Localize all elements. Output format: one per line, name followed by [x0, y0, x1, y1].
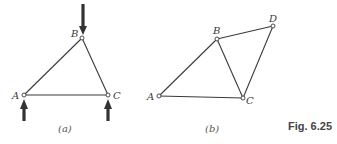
joint-label-b: B: [70, 28, 78, 39]
joint-b: [80, 36, 84, 40]
truss-figure: A B C (a) A B C D (b) Fig. 6.25: [0, 0, 337, 144]
panel-label-a: (a): [58, 123, 72, 134]
member-ab: [159, 39, 217, 96]
joint-b: [215, 37, 219, 41]
joint-c: [106, 93, 110, 97]
member-dc: [243, 26, 273, 98]
member-ab: [24, 38, 82, 95]
member-bc: [217, 39, 243, 98]
panel-b: A B C D (b): [146, 13, 277, 134]
arrow-up-icon: [104, 99, 112, 121]
member-ac: [159, 96, 243, 98]
member-bd: [217, 26, 273, 39]
joint-label-c: C: [246, 95, 254, 106]
joint-label-a: A: [11, 90, 19, 101]
panel-a: A B C (a): [11, 4, 121, 134]
figure-caption: Fig. 6.25: [288, 120, 332, 132]
joint-label-a: A: [146, 91, 154, 102]
member-bc: [82, 38, 108, 95]
joint-label-b: B: [212, 25, 220, 36]
joint-label-c: C: [113, 90, 121, 101]
arrow-down-icon: [79, 4, 87, 35]
joint-a: [22, 93, 26, 97]
arrow-up-icon: [20, 99, 28, 121]
joint-a: [157, 94, 161, 98]
panel-label-b: (b): [205, 123, 219, 134]
joint-d: [271, 24, 275, 28]
joint-label-d: D: [268, 13, 277, 24]
joint-c: [241, 96, 245, 100]
